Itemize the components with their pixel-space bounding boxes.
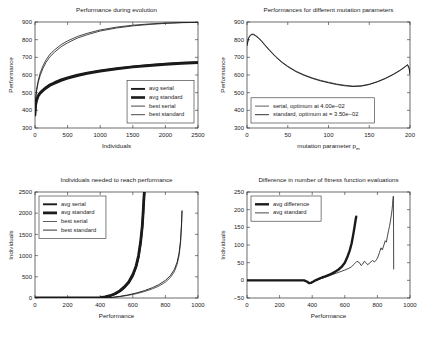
x-tick-label: 200 — [405, 132, 416, 138]
legend-label: best standard — [149, 111, 184, 117]
matlab-figure-canvas: Performance during evolution050010001500… — [0, 0, 424, 340]
y-tick-label: 0 — [29, 295, 33, 301]
y-tick-label: 0 — [241, 277, 245, 283]
series-group — [247, 34, 410, 86]
x-tick-label: 500 — [63, 132, 74, 138]
chart-difference-in-fitness-function-evaluations: Difference in number of fitness function… — [212, 170, 424, 340]
chart-legend: avg differenceavg standard — [251, 196, 321, 221]
legend-label: avg standard — [273, 209, 307, 215]
legend-label: avg serial — [61, 201, 86, 207]
x-tick-label: 0 — [245, 132, 249, 138]
chart-legend: serial, optimum at 4.00e−02standard, opt… — [251, 98, 375, 123]
x-tick-label: 2000 — [159, 132, 173, 138]
x-tick-label: 200 — [275, 302, 286, 308]
x-axis-label: mutation parameter pm — [297, 142, 360, 151]
y-tick-label: 500 — [22, 90, 33, 96]
y-tick-label: 150 — [234, 224, 245, 230]
x-axis-label: Performance — [99, 312, 135, 319]
y-axis-label: Performance — [219, 57, 226, 93]
x-tick-label: 200 — [63, 302, 74, 308]
subplot-individuals-needed: Individuals needed to reach performance0… — [0, 170, 212, 340]
x-tick-label: 400 — [307, 302, 318, 308]
y-tick-label: 400 — [22, 107, 33, 113]
y-tick-label: 2500 — [19, 189, 33, 195]
chart-title: Performances for different mutation para… — [264, 6, 394, 13]
x-tick-label: 2500 — [191, 132, 205, 138]
legend-label: best serial — [61, 218, 87, 224]
y-tick-label: 50 — [237, 260, 244, 266]
y-tick-label: 500 — [234, 90, 245, 96]
x-tick-label: 150 — [364, 132, 375, 138]
x-tick-label: 50 — [284, 132, 291, 138]
y-tick-label: 700 — [22, 54, 33, 60]
chart-title: Difference in number of fitness function… — [258, 176, 398, 183]
chart-legend: avg serialavg standardbest serialbest st… — [127, 81, 194, 123]
x-tick-label: 0 — [33, 302, 37, 308]
subplot-performance-during-evolution: Performance during evolution050010001500… — [0, 0, 212, 170]
y-tick-label: 2000 — [19, 210, 33, 216]
legend-label: best standard — [61, 227, 96, 233]
y-tick-label: 1000 — [19, 253, 33, 259]
x-tick-label: 1000 — [403, 302, 417, 308]
legend-label: serial, optimum at 4.00e−02 — [273, 103, 345, 109]
legend-label: avg serial — [149, 85, 174, 91]
chart-individuals-needed-to-reach-performance: Individuals needed to reach performance0… — [0, 170, 212, 340]
legend-label: avg standard — [61, 209, 95, 215]
y-tick-label: 100 — [234, 242, 245, 248]
y-tick-label: 600 — [22, 72, 33, 78]
chart-performances-mutation-parameters: Performances for different mutation para… — [212, 0, 424, 170]
y-tick-label: −50 — [234, 295, 245, 301]
y-tick-label: 700 — [234, 54, 245, 60]
y-tick-label: 800 — [22, 37, 33, 43]
chart-title: Individuals needed to reach performance — [60, 176, 173, 183]
y-tick-label: 900 — [234, 19, 245, 25]
subplot-difference-evaluations: Difference in number of fitness function… — [212, 170, 424, 340]
y-axis-label: Performance — [7, 57, 14, 93]
x-tick-label: 100 — [323, 132, 334, 138]
y-tick-label: 400 — [234, 107, 245, 113]
x-tick-label: 800 — [372, 302, 383, 308]
x-tick-label: 0 — [245, 302, 249, 308]
y-tick-label: 800 — [234, 37, 245, 43]
x-axis-label: Performance — [311, 312, 347, 319]
legend-label: avg standard — [149, 94, 183, 100]
chart-performance-during-evolution: Performance during evolution050010001500… — [0, 0, 212, 170]
x-tick-label: 1500 — [126, 132, 140, 138]
y-tick-label: 300 — [234, 125, 245, 131]
x-tick-label: 600 — [340, 302, 351, 308]
x-axis-label-subscript: m — [356, 146, 360, 151]
chart-title: Performance during evolution — [76, 6, 157, 13]
series-line — [247, 35, 410, 87]
legend-label: standard, optimum at = 3.50e−02 — [273, 111, 358, 117]
x-tick-label: 0 — [33, 132, 37, 138]
subplot-performances-mutation-parameters: Performances for different mutation para… — [212, 0, 424, 170]
legend-label: best serial — [149, 103, 175, 109]
x-tick-label: 600 — [128, 302, 139, 308]
legend-label: avg difference — [273, 201, 309, 207]
y-axis-label: Individuals — [219, 230, 226, 259]
x-axis-label: Individuals — [102, 142, 131, 149]
chart-legend: avg serialavg standardbest serialbest st… — [39, 196, 106, 238]
series-line — [247, 217, 356, 283]
y-tick-label: 900 — [22, 19, 33, 25]
x-tick-label: 1000 — [94, 132, 108, 138]
x-tick-label: 800 — [160, 302, 171, 308]
x-tick-label: 400 — [95, 302, 106, 308]
y-axis-label: Individuals — [7, 230, 14, 259]
y-tick-label: 1500 — [19, 232, 33, 238]
y-tick-label: 500 — [22, 274, 33, 280]
y-tick-label: 250 — [234, 189, 245, 195]
y-tick-label: 600 — [234, 72, 245, 78]
y-tick-label: 200 — [234, 207, 245, 213]
y-tick-label: 300 — [22, 125, 33, 131]
x-tick-label: 1000 — [191, 302, 205, 308]
